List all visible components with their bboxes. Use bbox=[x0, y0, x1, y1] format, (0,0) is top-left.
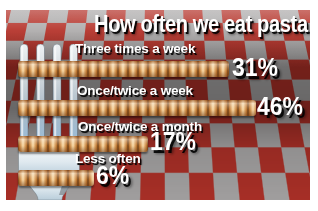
chart-title: How often we eat pasta bbox=[94, 10, 308, 38]
bar-less-often bbox=[18, 170, 94, 186]
bar-three-times-a-week bbox=[18, 61, 229, 77]
category-label-three-times-a-week: Three times a week bbox=[75, 41, 195, 56]
pasta-infographic: How often we eat pasta Three times a wee… bbox=[0, 0, 318, 211]
value-label-once-twice-a-week: 46% bbox=[257, 94, 303, 119]
value-label-once-twice-a-month: 17% bbox=[150, 129, 196, 154]
value-label-three-times-a-week: 31% bbox=[232, 55, 278, 80]
category-label-once-twice-a-week: Once/twice a week bbox=[77, 83, 193, 98]
photo-area: How often we eat pasta Three times a wee… bbox=[6, 10, 310, 200]
value-label-less-often: 6% bbox=[96, 163, 129, 188]
bar-once-twice-a-week bbox=[18, 100, 256, 116]
bar-once-twice-a-month bbox=[18, 136, 148, 152]
